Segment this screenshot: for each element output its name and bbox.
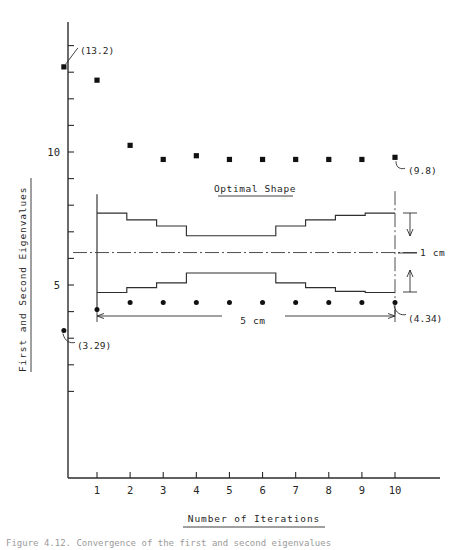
inset-length-label: 5 cm xyxy=(240,315,265,326)
x-axis-title: Number of Iterations xyxy=(188,513,320,524)
figure-caption-strip: Figure 4.12. Convergence of the first an… xyxy=(0,534,454,550)
inset-title: Optimal Shape xyxy=(214,183,296,194)
data-point-circle xyxy=(194,300,199,305)
annotation-label: (4.34) xyxy=(408,313,442,324)
y-axis-ticks xyxy=(68,46,74,392)
x-tick-label: 10 xyxy=(389,484,402,496)
axes-group xyxy=(68,22,440,478)
height-dimension-segment xyxy=(410,270,413,277)
data-point-square xyxy=(128,143,133,148)
x-tick-label: 6 xyxy=(259,484,265,496)
y-tick-label: 5 xyxy=(54,279,60,291)
annotation-label: (9.8) xyxy=(408,165,437,176)
x-tick-label: 7 xyxy=(293,484,299,496)
data-point-circle xyxy=(61,328,66,333)
series-second-eigenvalue xyxy=(61,300,397,333)
data-point-square xyxy=(227,157,232,162)
data-point-square xyxy=(94,78,99,83)
inset-upper-profile xyxy=(97,213,395,236)
data-point-square xyxy=(161,157,166,162)
data-point-square xyxy=(194,153,199,158)
data-point-square xyxy=(326,157,331,162)
figure-caption: Figure 4.12. Convergence of the first an… xyxy=(6,538,331,548)
data-point-circle xyxy=(161,300,166,305)
data-point-square xyxy=(61,64,66,69)
annotation-label: (13.2) xyxy=(80,45,114,56)
data-point-square xyxy=(293,157,298,162)
x-axis-ticks xyxy=(97,472,395,478)
data-point-circle xyxy=(260,300,265,305)
annotation-label: (3.29) xyxy=(77,340,111,351)
x-tick-label: 5 xyxy=(226,484,232,496)
data-point-circle xyxy=(128,300,133,305)
inset-height-label: 1 cm xyxy=(420,247,445,258)
inset-lower-profile xyxy=(97,273,395,292)
data-point-square xyxy=(260,157,265,162)
x-tick-label: 3 xyxy=(160,484,166,496)
data-point-circle xyxy=(95,307,100,312)
point-annotations: (13.2)(9.8)(3.29)(4.34) xyxy=(63,45,442,352)
data-point-square xyxy=(359,157,364,162)
height-dimension-segment xyxy=(410,229,413,236)
x-tick-label: 8 xyxy=(326,484,332,496)
y-tick-label: 10 xyxy=(47,146,60,158)
data-point-circle xyxy=(293,300,298,305)
x-tick-label: 1 xyxy=(94,484,100,496)
x-tick-label: 9 xyxy=(359,484,365,496)
data-point-circle xyxy=(359,300,364,305)
y-axis-tick-labels: 510 xyxy=(47,146,60,291)
data-point-square xyxy=(392,155,397,160)
annotation-leader xyxy=(394,306,406,315)
x-axis-tick-labels: 12345678910 xyxy=(94,484,401,496)
x-axis-title-group: Number of Iterations xyxy=(183,513,325,527)
figure-root: 510 12345678910 First and Second Eigenva… xyxy=(0,0,454,550)
series-first-eigenvalue xyxy=(61,64,397,162)
data-point-circle xyxy=(326,300,331,305)
data-point-circle xyxy=(393,300,398,305)
y-axis-title: First and Second Eigenvalues xyxy=(17,187,28,372)
data-point-circle xyxy=(227,300,232,305)
x-tick-label: 2 xyxy=(127,484,133,496)
y-axis-title-group: First and Second Eigenvalues xyxy=(17,178,31,372)
x-tick-label: 4 xyxy=(193,484,199,496)
annotation-leader xyxy=(396,161,405,168)
eigenvalue-convergence-chart: 510 12345678910 First and Second Eigenva… xyxy=(0,0,454,550)
